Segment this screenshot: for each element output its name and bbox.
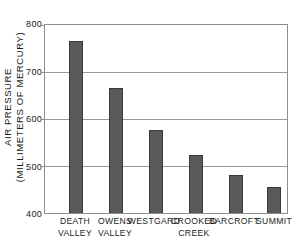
bar-westgard — [149, 130, 163, 213]
y-axis-title-line-1: AIR PRESSURE — [2, 32, 14, 182]
air-pressure-bar-chart: AIR PRESSURE (MILLIMETERS OF MERCURY) 40… — [0, 0, 296, 244]
y-tick-label-800: 800 — [18, 19, 42, 29]
x-tick-label-crooked-creek-line-2: CREEK — [166, 228, 222, 240]
y-tick-label-600: 600 — [18, 114, 42, 124]
bar-death-valley — [69, 41, 83, 213]
bar-summit — [267, 187, 281, 213]
bar-crooked-creek — [189, 155, 203, 213]
x-axis-tick-labels: DEATH VALLEY OWENS VALLEY WESTGARD CROOK… — [44, 216, 296, 244]
tickmark-500 — [41, 166, 45, 167]
tickmark-700 — [41, 72, 45, 73]
x-tick-label-owens-valley-line-2: VALLEY — [88, 228, 142, 240]
bar-owens-valley — [109, 88, 123, 213]
y-axis-tick-labels: 400 500 600 700 800 — [17, 0, 42, 244]
bar-barcroft — [229, 175, 243, 213]
y-tick-label-500: 500 — [18, 162, 42, 172]
x-tick-label-summit-line-1: SUMMIT — [250, 216, 296, 228]
y-tick-label-700: 700 — [18, 67, 42, 77]
x-tick-label-summit: SUMMIT — [250, 216, 296, 228]
tickmark-600 — [41, 119, 45, 120]
plot-area — [44, 24, 288, 214]
tickmark-800 — [41, 25, 45, 26]
y-tick-label-400: 400 — [18, 209, 42, 219]
